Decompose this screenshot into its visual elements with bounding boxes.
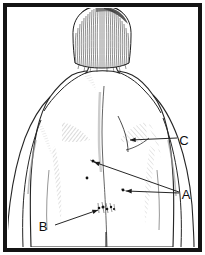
label-a: A bbox=[182, 187, 191, 202]
back-illustration: C A B bbox=[0, 0, 205, 255]
head-and-hair bbox=[73, 5, 131, 72]
figure-container: C A B bbox=[0, 0, 205, 255]
label-b: B bbox=[39, 219, 48, 234]
lesion-a-middle bbox=[86, 177, 89, 180]
label-c: C bbox=[179, 133, 188, 148]
